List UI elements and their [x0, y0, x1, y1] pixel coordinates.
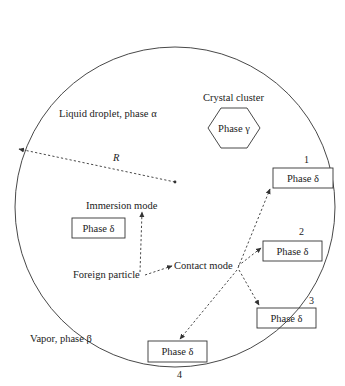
droplet-center-dot — [174, 181, 177, 184]
contact-arrow-1 — [238, 189, 270, 268]
foreign-particle-label: Foreign particle — [73, 269, 140, 280]
contact-number-2: 2 — [299, 226, 304, 237]
contact-phase-label-3: Phase δ — [270, 313, 302, 324]
contact-phase-label-2: Phase δ — [276, 246, 308, 257]
contact-number-3: 3 — [309, 295, 314, 306]
contact-arrow-3 — [239, 270, 259, 305]
contact-arrow-4 — [180, 270, 237, 339]
crystal-cluster-label: Crystal cluster — [203, 92, 264, 103]
contact-number-1: 1 — [304, 154, 309, 165]
contact-number-4: 4 — [177, 369, 182, 380]
contact-arrow-2 — [238, 248, 261, 266]
vapor-label: Vapor, phase β — [30, 333, 92, 344]
droplet-label: Liquid droplet, phase α — [59, 108, 157, 119]
crystal-phase-label: Phase γ — [218, 123, 250, 134]
immersion-phase-label: Phase δ — [82, 223, 114, 234]
immersion-arrow — [140, 212, 142, 272]
contact-phase-label-1: Phase δ — [287, 173, 319, 184]
nucleation-diagram: R Liquid droplet, phase α Crystal cluste… — [0, 0, 345, 386]
particle-to-contact-arrow — [145, 266, 172, 275]
contact-mode-label: Contact mode — [174, 260, 233, 271]
radius-arrow — [19, 149, 175, 182]
contact-phase-label-4: Phase δ — [161, 346, 193, 357]
radius-label: R — [112, 152, 120, 163]
immersion-mode-label: Immersion mode — [86, 200, 158, 211]
